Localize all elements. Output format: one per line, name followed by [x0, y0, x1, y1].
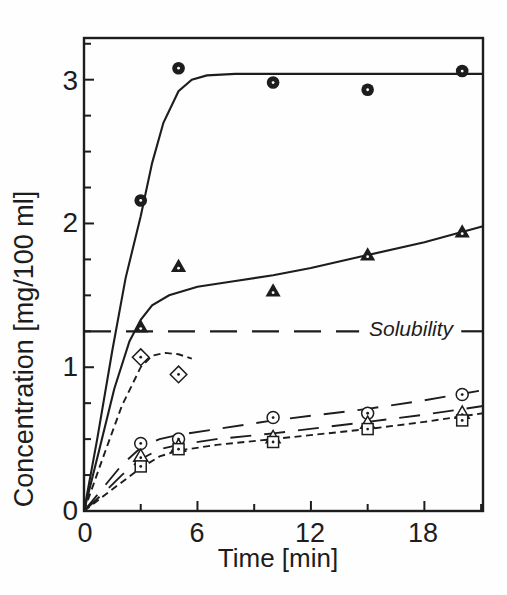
marker-center-dot: [139, 442, 142, 445]
x-axis-title: Time [min]: [178, 545, 378, 571]
marker-center-dot: [366, 255, 369, 258]
solubility-annotation: Solubility: [366, 317, 456, 341]
marker-center-dot: [139, 465, 142, 468]
marker-center-dot: [461, 419, 464, 422]
marker-center-dot: [139, 356, 142, 359]
marker-filled-triangle: [265, 283, 280, 296]
marker-center-dot: [177, 67, 180, 70]
marker-filled-triangle: [171, 259, 186, 272]
marker-center-dot: [139, 456, 142, 459]
figure: 0 1 2 3 0 6 12 18 Time [min] Concentrati…: [0, 0, 507, 595]
marker-center-dot: [461, 393, 464, 396]
marker-center-dot: [272, 416, 275, 419]
marker-center-dot: [366, 88, 369, 91]
x-tick-label-6: 6: [171, 519, 223, 547]
marker-center-dot: [177, 267, 180, 270]
marker-center-dot: [366, 412, 369, 415]
marker-filled-triangle: [133, 319, 148, 332]
y-tick-label-3: 3: [34, 67, 78, 95]
marker-center-dot: [366, 428, 369, 431]
marker-center-dot: [139, 199, 142, 202]
marker-center-dot: [272, 441, 275, 444]
series-line-open-circle: [84, 390, 483, 511]
marker-center-dot: [139, 327, 142, 330]
marker-center-dot: [272, 291, 275, 294]
marker-center-dot: [272, 81, 275, 84]
y-axis-title: Concentration [mg/100 ml]: [11, 191, 37, 508]
y-tick-label-1: 1: [34, 353, 78, 381]
y-tick-label-2: 2: [34, 209, 78, 237]
x-tick-label-0: 0: [59, 519, 111, 547]
marker-center-dot: [461, 70, 464, 73]
x-tick-label-18: 18: [397, 519, 449, 547]
marker-center-dot: [461, 232, 464, 235]
marker-center-dot: [177, 373, 180, 376]
marker-center-dot: [177, 448, 180, 451]
